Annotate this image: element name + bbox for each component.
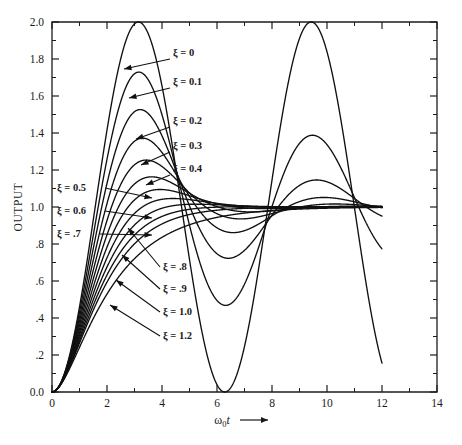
chart-background xyxy=(0,0,462,445)
series-label: ξ = 0.2 xyxy=(173,115,202,127)
y-tick-label: 1.2 xyxy=(30,164,45,176)
series-label: ξ = 0.3 xyxy=(173,140,202,152)
y-axis-label: OUTPUT xyxy=(12,183,24,232)
x-tick-label: 6 xyxy=(214,397,220,409)
series-label: ξ = 0.1 xyxy=(173,76,202,88)
series-label: ξ = .7 xyxy=(57,228,81,240)
x-tick-label: 0 xyxy=(49,397,55,409)
series-label: ξ = 0.6 xyxy=(57,205,86,217)
y-tick-label: 1.0 xyxy=(30,201,45,213)
y-tick-label: .2 xyxy=(35,349,44,361)
y-tick-label: 0.0 xyxy=(30,386,45,398)
series-label: ξ = 0 xyxy=(173,47,194,59)
y-tick-label: .8 xyxy=(35,238,44,250)
series-label: ξ = 0.4 xyxy=(173,163,203,175)
series-label: ξ = 1.2 xyxy=(163,330,192,342)
x-tick-label: 8 xyxy=(269,397,275,409)
x-tick-label: 2 xyxy=(104,397,110,409)
x-tick-label: 14 xyxy=(431,397,443,409)
series-label: ξ = 0.5 xyxy=(57,182,86,194)
series-label: ξ = .8 xyxy=(163,261,187,273)
x-tick-label: 10 xyxy=(321,397,333,409)
y-tick-label: .6 xyxy=(35,275,44,287)
x-tick-label: 4 xyxy=(159,397,165,409)
x-tick-label: 12 xyxy=(376,397,388,409)
y-tick-label: 1.8 xyxy=(30,53,45,65)
y-tick-label: 2.0 xyxy=(30,16,45,28)
y-tick-label: 1.6 xyxy=(30,90,45,102)
series-label: ξ = .9 xyxy=(163,283,187,295)
series-label: ξ = 1.0 xyxy=(163,306,192,318)
y-tick-label: .4 xyxy=(35,312,44,324)
y-tick-label: 1.4 xyxy=(30,127,45,139)
step-response-chart: 02468101214 0.0.2.4.6.81.01.21.41.61.82.… xyxy=(0,0,462,445)
